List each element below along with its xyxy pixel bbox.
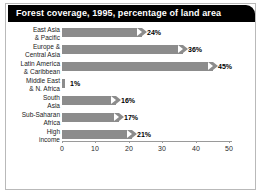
x-tick-label-0: 0 bbox=[52, 145, 72, 152]
x-tick-mark bbox=[196, 141, 197, 143]
bar-fill bbox=[62, 113, 119, 122]
value-label-south-asia: 16% bbox=[121, 97, 135, 104]
category-label-europe-central-asia: Europe & Central Asia bbox=[14, 43, 60, 58]
bar-fill bbox=[62, 62, 213, 71]
bar-europe-central-asia bbox=[62, 45, 183, 54]
x-tick-mark bbox=[95, 141, 96, 143]
x-tick-label-40: 40 bbox=[186, 145, 206, 152]
value-label-east-asia-pacific: 24% bbox=[147, 29, 161, 36]
bar-latin-america-caribbean bbox=[62, 62, 213, 71]
chart-figure: Forest coverage, 1995, percentage of lan… bbox=[0, 0, 261, 194]
x-tick-label-50: 50 bbox=[219, 145, 239, 152]
x-tick-label-10: 10 bbox=[85, 145, 105, 152]
bar-fill bbox=[62, 28, 142, 37]
value-label-sub-saharan-africa: 17% bbox=[124, 114, 138, 121]
value-label-middle-east-n-africa: 1% bbox=[70, 80, 80, 87]
x-axis-line bbox=[62, 141, 232, 142]
x-tick-mark bbox=[162, 141, 163, 143]
category-label-high-income: High income bbox=[14, 128, 60, 143]
bar-fill bbox=[62, 96, 116, 105]
x-tick-mark bbox=[62, 141, 63, 143]
value-label-latin-america-caribbean: 45% bbox=[218, 63, 232, 70]
bar-sub-saharan-africa bbox=[62, 113, 119, 122]
plot-area: East Asia & Pacific Europe & Central Asi… bbox=[0, 0, 261, 194]
category-label-sub-saharan-africa: Sub-Saharan Africa bbox=[10, 111, 60, 126]
bar-middle-east-n-africa bbox=[62, 79, 65, 88]
x-tick-label-20: 20 bbox=[119, 145, 139, 152]
value-label-europe-central-asia: 36% bbox=[188, 46, 202, 53]
category-label-middle-east-n-africa: Middle East & N. Africa bbox=[10, 77, 60, 92]
bar-east-asia-pacific bbox=[62, 28, 142, 37]
category-label-latin-america-caribbean: Latin America & Caribbean bbox=[8, 60, 60, 75]
bar-high-income bbox=[62, 130, 132, 139]
bar-fill bbox=[62, 45, 183, 54]
value-label-high-income: 21% bbox=[137, 131, 151, 138]
x-tick-mark bbox=[229, 141, 230, 143]
bar-fill bbox=[62, 79, 65, 88]
category-label-south-asia: South Asia bbox=[14, 94, 60, 109]
x-tick-mark bbox=[129, 141, 130, 143]
x-tick-label-30: 30 bbox=[152, 145, 172, 152]
category-label-east-asia-pacific: East Asia & Pacific bbox=[14, 26, 60, 41]
bar-fill bbox=[62, 130, 132, 139]
bar-south-asia bbox=[62, 96, 116, 105]
